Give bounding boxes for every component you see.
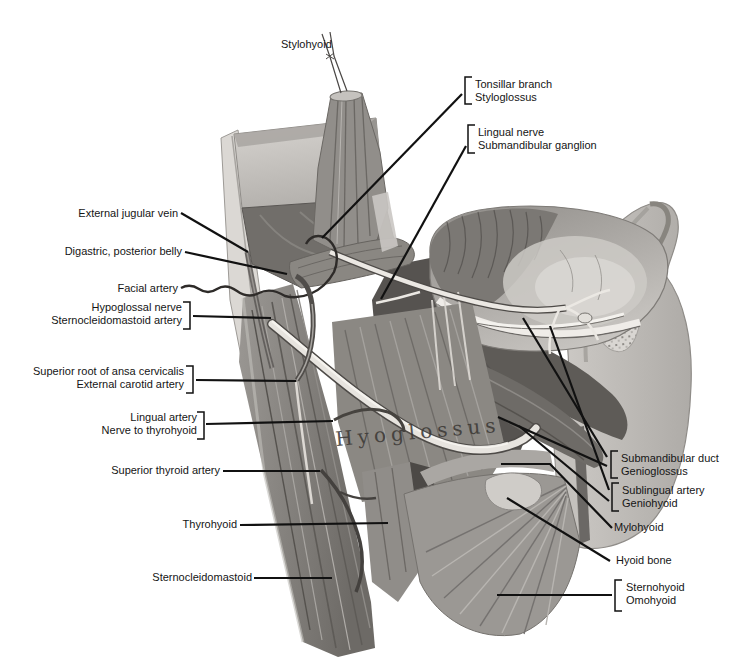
label-superior-thyroid-artery: Superior thyroid artery: [111, 464, 220, 477]
label-text: Hypoglossal nerve: [51, 301, 182, 314]
bracket-lingual-nerve: [468, 125, 475, 153]
label-sternocleidomastoid: Sternocleidomastoid: [152, 571, 252, 584]
label-facial-artery: Facial artery: [117, 282, 178, 295]
label-digastric-posterior-belly: Digastric, posterior belly: [65, 245, 182, 258]
anatomy-plate: Hyoglossus Stylohyoid Tonsillar branch: [0, 0, 750, 664]
label-text: Sternocleidomastoid: [152, 571, 252, 584]
label-text: Lingual artery: [102, 411, 197, 424]
label-tonsillar-styloglossus: Tonsillar branch Styloglossus: [475, 78, 552, 104]
label-text: Mylohyoid: [614, 521, 664, 534]
label-text: Geniohyoid: [622, 497, 705, 510]
label-text: Lingual nerve: [478, 126, 597, 139]
bracket-sternohyoid: [615, 580, 622, 611]
label-text: Submandibular ganglion: [478, 139, 597, 152]
label-text: Sternocleidomastoid artery: [51, 314, 182, 327]
label-text: Tonsillar branch: [475, 78, 552, 91]
label-text: Stylohyoid: [281, 38, 332, 51]
label-ansa-carotid: Superior root of ansa cervicalis Externa…: [33, 365, 184, 391]
label-text: Superior thyroid artery: [111, 464, 220, 477]
label-text: Sternohyoid: [626, 581, 685, 594]
leader-thyrohyoid: [240, 523, 388, 525]
label-hyoid-bone: Hyoid bone: [616, 554, 672, 567]
label-text: Styloglossus: [475, 91, 552, 104]
label-text: External jugular vein: [78, 207, 178, 220]
label-text: Facial artery: [117, 282, 178, 295]
bracket-tonsillar: [465, 77, 472, 104]
label-text: Sublingual artery: [622, 484, 705, 497]
label-external-jugular-vein: External jugular vein: [78, 207, 178, 220]
bracket-hypoglossal: [183, 302, 190, 329]
label-text: Hyoid bone: [616, 554, 672, 567]
label-text: Superior root of ansa cervicalis: [33, 365, 184, 378]
submandibular-ganglion-structure: [578, 313, 592, 323]
suture-thread: [330, 32, 347, 91]
label-hypoglossal-scm-artery: Hypoglossal nerve Sternocleidomastoid ar…: [51, 301, 182, 327]
label-text: Thyrohyoid: [183, 518, 237, 531]
label-sublingual-geniohyoid: Sublingual artery Geniohyoid: [622, 484, 705, 510]
label-stylohyoid: Stylohyoid: [281, 38, 332, 51]
label-thyrohyoid: Thyrohyoid: [183, 518, 237, 531]
label-text: Omohyoid: [626, 594, 685, 607]
label-lingual-artery-thyrohyoid-nerve: Lingual artery Nerve to thyrohyoid: [102, 411, 197, 437]
label-text: Genioglossus: [621, 465, 719, 478]
label-text: Submandibular duct: [621, 452, 719, 465]
label-lingual-nerve-ganglion: Lingual nerve Submandibular ganglion: [478, 126, 597, 152]
label-text: Nerve to thyrohyoid: [102, 424, 197, 437]
hyoid-bone-structure: [485, 473, 541, 510]
label-sternohyoid-omohyoid: Sternohyoid Omohyoid: [626, 581, 685, 607]
label-submandibular-duct-genioglossus: Submandibular duct Genioglossus: [621, 452, 719, 478]
leader-ansa-group: [196, 380, 296, 381]
label-mylohyoid: Mylohyoid: [614, 521, 664, 534]
bracket-ansa: [186, 366, 193, 393]
bracket-lingual-artery: [197, 412, 204, 439]
label-text: External carotid artery: [33, 378, 184, 391]
illustration: Hyoglossus: [181, 32, 691, 657]
label-text: Digastric, posterior belly: [65, 245, 182, 258]
